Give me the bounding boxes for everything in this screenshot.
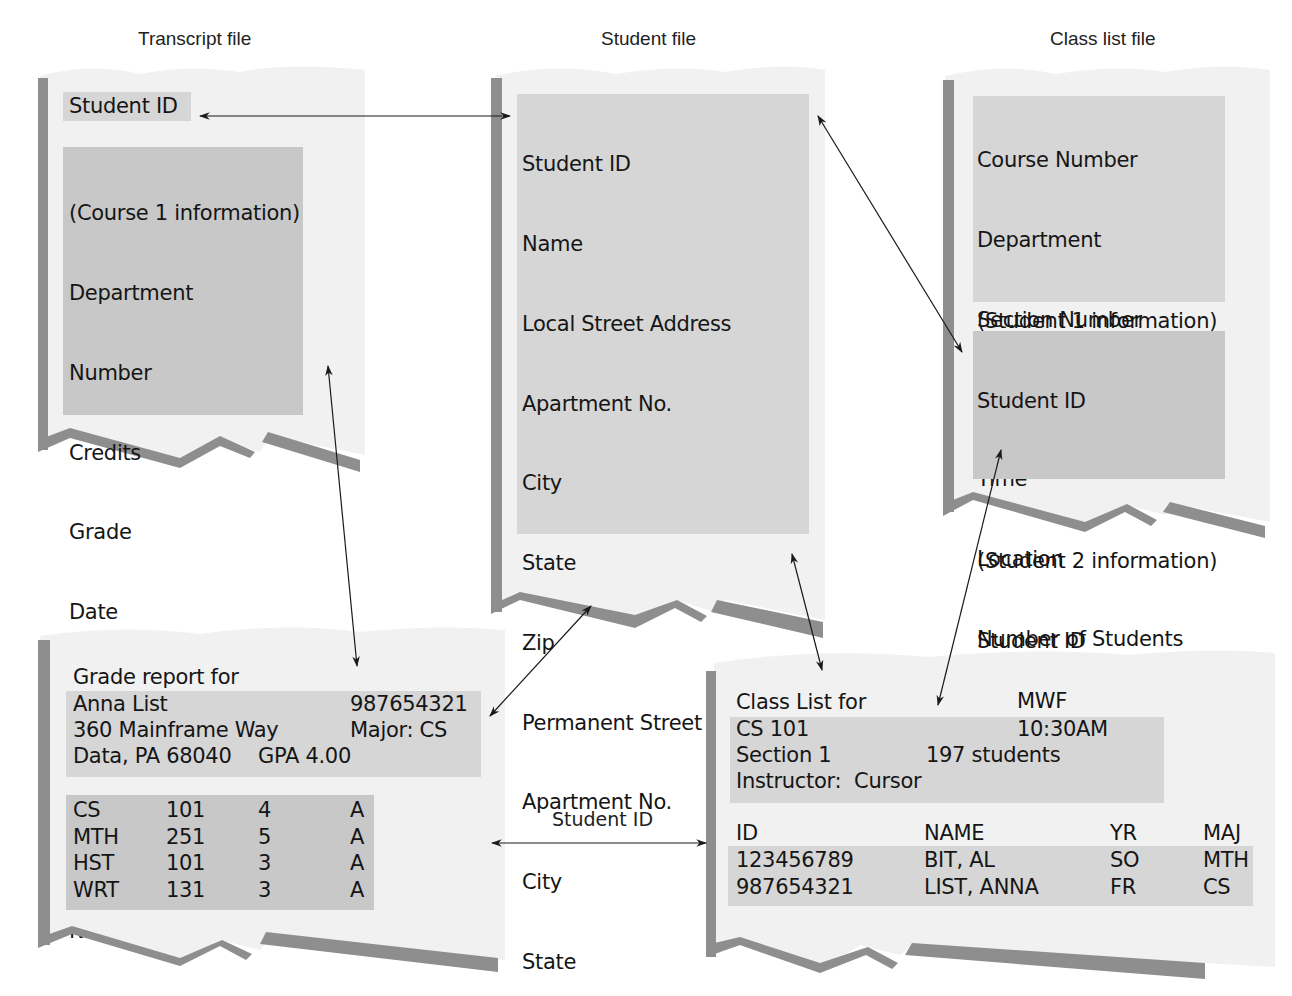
grade-report-document: Grade report for Anna List 987654321 360… [30,620,510,980]
row-maj: CS [1203,875,1230,899]
course-num: 251 [166,825,205,849]
field: Local Street Address [522,311,790,338]
course-grade: A [350,878,364,902]
field: Apartment No. [522,391,790,418]
column-header-yr: YR [1110,821,1137,845]
field: Grade [69,519,300,546]
field: Name [522,231,790,258]
classlist-file-title: Class list file [1050,28,1156,50]
student-street: 360 Mainframe Way [73,718,278,742]
course-grade: A [350,825,364,849]
column-header-maj: MAJ [1203,821,1241,845]
class-list-heading: Class List for [736,689,866,716]
class-time: 10:30AM [1017,717,1108,741]
transcript-file-document: Student ID (Course 1 information) Depart… [30,60,370,480]
field: City [522,470,790,497]
course-credits: 4 [258,798,271,822]
field: Department [977,227,1183,254]
class-section: Section 1 [736,743,831,767]
grade-report-heading: Grade report for [73,664,239,691]
class-instructor: Instructor: Cursor [736,769,921,793]
row-yr: SO [1110,848,1139,872]
course-dept: WRT [73,878,119,902]
row-name: LIST, ANNA [924,875,1039,899]
classlist-file-document: Course Number Department Section Number … [935,60,1275,540]
course-grade: A [350,851,364,875]
student-major: Major: CS [350,718,447,742]
class-list-report-document: Class List for MWF CS 101 10:30AM Sectio… [700,645,1280,985]
field: Department [69,280,300,307]
course-dept: HST [73,851,114,875]
field: (Course 1 information) [69,200,300,227]
student-city: Data, PA 68040 [73,744,231,768]
student-file-document: Student ID Name Local Street Address Apa… [485,60,830,640]
field: State [522,550,790,577]
transcript-student-id: Student ID [69,93,178,120]
class-course: CS 101 [736,717,809,741]
course-num: 101 [166,851,205,875]
field: Student ID [522,151,790,178]
column-header-name: NAME [924,821,984,845]
student-file-title: Student file [601,28,696,50]
row-name: BIT, AL [924,848,995,872]
course-dept: MTH [73,825,119,849]
row-id: 987654321 [736,875,854,899]
field [977,468,1217,495]
field: (Student 2 information) [977,548,1217,575]
course-credits: 3 [258,878,271,902]
field: Number [69,360,300,387]
course-grade: A [350,798,364,822]
column-header-id: ID [736,821,758,845]
course-credits: 5 [258,825,271,849]
row-id: 123456789 [736,848,854,872]
student-name: Anna List [73,692,168,716]
transcript-file-title: Transcript file [138,28,251,50]
course-dept: CS [73,798,100,822]
field: Course Number [977,147,1183,174]
class-days: MWF [1017,689,1067,713]
course-credits: 3 [258,851,271,875]
row-maj: MTH [1203,848,1249,872]
field: Credits [69,440,300,467]
field: Student ID [977,388,1217,415]
row-yr: FR [1110,875,1136,899]
student-id: 987654321 [350,692,468,716]
student-id-link-label: Student ID [552,808,653,830]
student-gpa: GPA 4.00 [258,744,351,768]
class-count: 197 students [926,743,1060,767]
course-num: 131 [166,878,205,902]
course-num: 101 [166,798,205,822]
